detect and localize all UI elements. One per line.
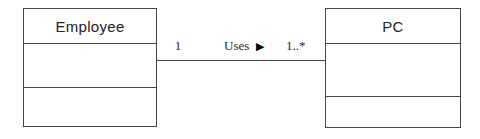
class-box-employee: Employee: [23, 8, 157, 127]
multiplicity-source: 1: [170, 39, 186, 53]
attributes-compartment-pc: [326, 44, 460, 97]
operations-compartment-employee: [24, 88, 156, 126]
attributes-compartment-employee: [24, 44, 156, 88]
association-line: [157, 60, 325, 61]
class-box-pc: PC: [325, 8, 461, 128]
association-name: Uses: [224, 39, 249, 53]
uml-class-diagram: Employee PC 1 Uses ▶ 1..*: [0, 0, 480, 139]
direction-arrow-icon: ▶: [256, 39, 264, 53]
association-label: Uses ▶: [224, 39, 264, 53]
class-name-employee: Employee: [24, 9, 156, 44]
class-name-pc: PC: [326, 9, 460, 44]
operations-compartment-pc: [326, 97, 460, 127]
multiplicity-target: 1..*: [286, 39, 306, 53]
